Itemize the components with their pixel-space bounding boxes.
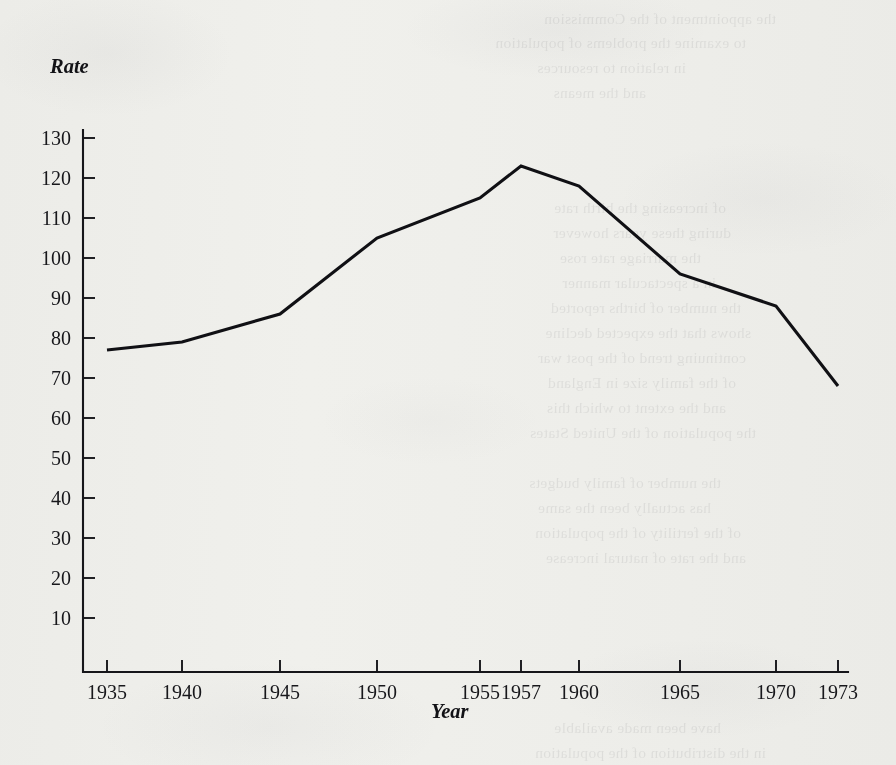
x-tick-label: 1950	[357, 681, 397, 703]
y-tick-label: 20	[51, 567, 71, 589]
x-tick-label: 1965	[660, 681, 700, 703]
rate-series-line	[107, 166, 838, 386]
x-tick-label: 1935	[87, 681, 127, 703]
x-tick-label: 1960	[559, 681, 599, 703]
y-tick-label: 10	[51, 607, 71, 629]
y-axis-tick-labels: 130120110100908070605040302010	[41, 127, 71, 629]
x-axis-tick-marks	[107, 660, 838, 672]
x-tick-label: 1970	[756, 681, 796, 703]
rate-vs-year-line-chart: 130120110100908070605040302010 193519401…	[0, 0, 896, 765]
y-axis-tick-marks	[83, 138, 95, 618]
y-tick-label: 70	[51, 367, 71, 389]
axis-lines	[83, 130, 848, 672]
y-tick-label: 60	[51, 407, 71, 429]
y-tick-label: 90	[51, 287, 71, 309]
y-axis-title: Rate	[49, 55, 89, 77]
x-tick-label: 1957	[501, 681, 541, 703]
x-tick-label: 1940	[162, 681, 202, 703]
x-axis-tick-labels: 1935194019451950195519571960196519701973	[87, 681, 858, 703]
y-tick-label: 130	[41, 127, 71, 149]
y-tick-label: 110	[42, 207, 71, 229]
y-tick-label: 30	[51, 527, 71, 549]
y-tick-label: 40	[51, 487, 71, 509]
x-tick-label: 1973	[818, 681, 858, 703]
y-tick-label: 120	[41, 167, 71, 189]
y-tick-label: 100	[41, 247, 71, 269]
y-tick-label: 80	[51, 327, 71, 349]
y-tick-label: 50	[51, 447, 71, 469]
x-axis-title: Year	[431, 700, 470, 722]
x-tick-label: 1945	[260, 681, 300, 703]
chart-page: the appointment of the Commissionto exam…	[0, 0, 896, 765]
